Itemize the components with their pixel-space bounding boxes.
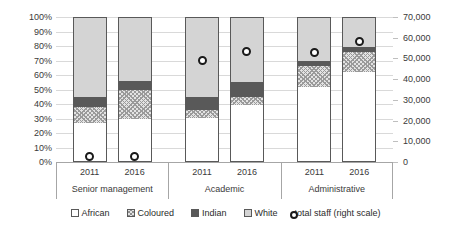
coloured-swatch (127, 209, 135, 217)
y-axis-right-tickmark (393, 38, 398, 39)
y-axis-left-tick: 100% (12, 13, 52, 22)
y-axis-left-tick: 20% (12, 129, 52, 138)
y-axis-right-tickmark (393, 141, 398, 142)
y-axis-right-tick: 10,000 (403, 137, 431, 146)
legend-label: Coloured (138, 208, 175, 218)
legend-item[interactable]: Indian (191, 208, 227, 218)
y-axis-left-tick: 60% (12, 71, 52, 80)
y-axis-right-tick: 50,000 (403, 54, 431, 63)
y-axis-right-tickmark (393, 17, 398, 18)
stacked-bar (73, 17, 107, 162)
bar-segment-african (185, 118, 219, 162)
x-axis-year-label: 2016 (107, 167, 163, 177)
indian-swatch (191, 209, 199, 217)
y-axis-right-tick: 30,000 (403, 96, 431, 105)
african-swatch (71, 209, 79, 217)
bar-segment-indian (118, 81, 152, 90)
y-axis-right-tick: 20,000 (403, 117, 431, 126)
x-axis-group-label: Administrative (281, 184, 393, 194)
legend-label: total staff (right scale) (295, 208, 381, 218)
y-axis-left-tick: 40% (12, 100, 52, 109)
y-axis-left-tick: 50% (12, 86, 52, 95)
y-axis-right-tickmark (393, 162, 398, 163)
bar-segment-coloured (73, 107, 107, 123)
legend-label: Indian (202, 208, 227, 218)
total-staff-marker (198, 56, 207, 65)
x-axis-year-label: 2016 (219, 167, 275, 177)
stacked-bar (118, 17, 152, 162)
chart-container: 0%10%20%30%40%50%60%70%80%90%100%010,000… (0, 0, 451, 229)
bar-segment-indian (230, 82, 264, 97)
y-axis-right-tick: 40,000 (403, 75, 431, 84)
y-axis-right-tick: 70,000 (403, 13, 431, 22)
bar-segment-coloured (230, 97, 264, 106)
y-axis-right-tickmark (393, 58, 398, 59)
legend-item[interactable]: total staff (right scale) (295, 208, 381, 218)
total-staff-marker (130, 152, 139, 161)
legend-item[interactable]: White (244, 208, 278, 218)
legend-item[interactable]: Coloured (127, 208, 175, 218)
stacked-bar (297, 17, 331, 162)
bar-segment-african (230, 105, 264, 162)
bar-segment-african (342, 72, 376, 162)
y-axis-left-tick: 90% (12, 28, 52, 37)
bar-segment-indian (185, 97, 219, 110)
bar-segment-african (297, 87, 331, 162)
category-axis: 20112016Senior management20112016Academi… (56, 162, 393, 199)
chart-legend: AfricanColouredIndianWhitetotal staff (r… (0, 203, 451, 223)
plot-area: 0%10%20%30%40%50%60%70%80%90%100%010,000… (56, 17, 393, 162)
legend-label: African (82, 208, 110, 218)
y-axis-left-tick: 30% (12, 115, 52, 124)
stacked-bar (230, 17, 264, 162)
total-staff-marker (290, 211, 298, 219)
y-axis-right-tick: 0 (403, 158, 408, 167)
x-axis-group-label: Senior management (56, 184, 168, 194)
bar-segment-indian (342, 47, 376, 51)
y-axis-right-tick: 60,000 (403, 34, 431, 43)
legend-label: White (255, 208, 278, 218)
y-axis-right-tickmark (393, 121, 398, 122)
bar-segment-indian (297, 61, 331, 67)
y-axis-right-tickmark (393, 79, 398, 80)
bar-segment-coloured (342, 52, 376, 72)
y-axis-left-tick: 70% (12, 57, 52, 66)
total-staff-marker (310, 48, 319, 57)
white-swatch (244, 209, 252, 217)
y-axis-left-tick: 10% (12, 144, 52, 153)
bar-segment-indian (73, 97, 107, 107)
bar-segment-coloured (118, 90, 152, 119)
y-axis-right-tickmark (393, 100, 398, 101)
y-axis-left-tick: 80% (12, 42, 52, 51)
stacked-bar (185, 17, 219, 162)
bar-segment-white (73, 17, 107, 97)
bar-segment-coloured (297, 66, 331, 87)
bar-segment-white (118, 17, 152, 81)
x-axis-year-label: 2016 (331, 167, 387, 177)
bar-segment-coloured (185, 110, 219, 118)
x-axis-group-label: Academic (168, 184, 280, 194)
y-axis-left-tick: 0% (12, 158, 52, 167)
legend-item[interactable]: African (71, 208, 110, 218)
